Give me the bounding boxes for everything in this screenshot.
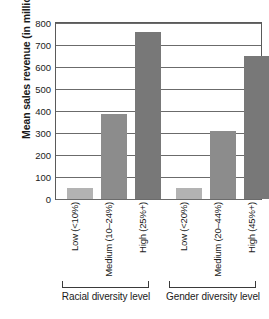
bar-racial-high [135,32,161,199]
bar-fill-gender-low [176,188,202,199]
bar-chart-figure: Mean sales revenue (in millions) 800 700… [0,0,269,319]
group-bracket-racial [62,281,149,288]
group-bracket-gender [169,281,256,288]
x-tick-label-gender-low: Low (<20%) [178,202,189,251]
y-tick-label-200: 200 [17,150,56,161]
bar-gender-medium [210,131,236,199]
y-tick-label-800: 800 [17,18,56,29]
y-tick-label-100: 100 [17,172,56,183]
gridline-0: 0 [56,199,261,200]
bar-gender-low [176,188,202,199]
bar-fill-racial-medium [101,114,127,199]
x-tick-label-gender-high: High (45%+) [246,202,257,253]
group-label-gender: Gender diversity level [153,291,269,302]
bar-fill-racial-high [135,32,161,199]
bar-racial-medium [101,114,127,199]
plot-area: 800 700 600 500 400 300 200 100 0 [55,22,262,200]
y-tick-label-700: 700 [17,40,56,51]
x-tick-label-racial-low: Low (<10%) [69,202,80,251]
bar-gender-high [244,56,269,199]
x-tick-label-gender-medium: Medium (20–44%) [212,202,223,277]
bar-fill-racial-low [67,188,93,199]
x-tick-labels: Low (<10%) Medium (10–24%) High (25%+) L… [55,202,262,268]
y-tick-label-600: 600 [17,62,56,73]
x-tick-label-racial-medium: Medium (10–24%) [103,202,114,277]
bar-fill-gender-high [244,56,269,199]
y-tick-label-300: 300 [17,128,56,139]
x-tick-label-racial-high: High (25%+) [137,202,148,253]
bar-racial-low [67,188,93,199]
y-tick-label-400: 400 [17,106,56,117]
y-tick-label-0: 0 [17,194,56,205]
bars-container [56,23,261,199]
bar-fill-gender-medium [210,131,236,199]
y-tick-label-500: 500 [17,84,56,95]
group-label-racial: Racial diversity level [46,291,166,302]
